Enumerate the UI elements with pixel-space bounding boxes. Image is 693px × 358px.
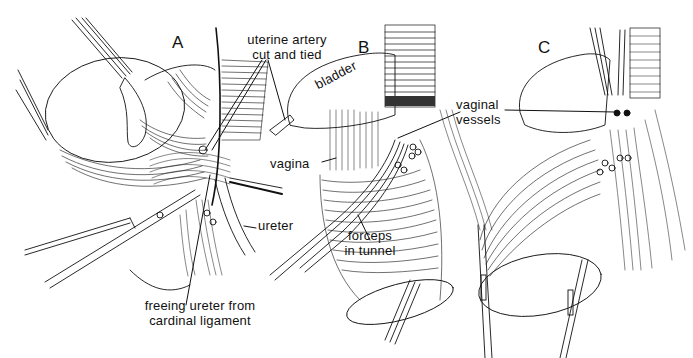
panel-b-drawing xyxy=(270,25,492,344)
label-uterine-artery-line1: uterine artery xyxy=(232,32,342,47)
panel-a-adnexa xyxy=(145,65,215,80)
surgical-illustration xyxy=(0,0,693,358)
panel-c-lower-clamp xyxy=(478,225,588,358)
label-forceps-line1: forceps xyxy=(340,228,400,243)
panel-a-ligament xyxy=(120,78,146,147)
label-vaginal-vessels: vaginal vessels xyxy=(456,97,501,127)
panel-a-uterus xyxy=(38,49,191,171)
panel-a-lower-tissue xyxy=(130,270,190,290)
panel-b-cut-end xyxy=(342,270,458,333)
label-uterine-artery-line2: cut and tied xyxy=(232,47,342,62)
panel-c-cut-end xyxy=(474,245,607,326)
panel-b-lymph-nodes xyxy=(395,144,421,173)
panel-label-c: C xyxy=(538,38,550,58)
panel-b-retractor xyxy=(385,25,435,107)
panel-a-left-forceps xyxy=(16,70,48,140)
panel-a-node xyxy=(210,219,216,225)
label-ureter: ureter xyxy=(258,218,293,233)
panel-a-ureter xyxy=(215,178,255,255)
panel-a-node xyxy=(204,210,210,216)
label-forceps-in-tunnel: forceps in tunnel xyxy=(340,228,400,258)
panel-c-drawing xyxy=(474,28,685,358)
panel-c-bladder xyxy=(519,54,610,133)
label-forceps-line2: in tunnel xyxy=(340,243,400,258)
panel-c-clamps xyxy=(590,28,660,98)
panel-a-top-forceps xyxy=(72,18,132,78)
panel-label-a: A xyxy=(172,33,183,53)
panel-a-scissors xyxy=(25,190,200,288)
panel-a-retractor-blade xyxy=(222,60,268,140)
panel-c-leader-line xyxy=(505,110,615,112)
panel-c-clamp-tip xyxy=(624,110,630,116)
label-freeing-line1: freeing ureter from xyxy=(135,298,265,313)
panel-c-tissue xyxy=(610,110,685,270)
panel-b-lower-forceps xyxy=(385,280,420,344)
label-freeing-ureter: freeing ureter from cardinal ligament xyxy=(135,298,265,328)
label-vagina: vagina xyxy=(270,156,310,171)
label-freeing-line2: cardinal ligament xyxy=(135,313,265,328)
panel-c-vagina xyxy=(480,140,600,276)
label-vaginal-vessels-line2: vessels xyxy=(456,112,501,127)
panel-a-probe xyxy=(230,182,282,194)
panel-b-tissue xyxy=(330,110,492,230)
label-uterine-artery: uterine artery cut and tied xyxy=(232,32,342,62)
panel-c-clamp-tip xyxy=(614,110,620,116)
figure-caption-cutoff xyxy=(0,350,693,358)
panel-b-vagina xyxy=(320,140,442,300)
label-vaginal-vessels-line1: vaginal xyxy=(456,97,501,112)
panel-a-tissue-hatching xyxy=(60,70,210,186)
panel-label-b: B xyxy=(358,38,369,58)
panel-a-retractor-edge xyxy=(212,28,220,205)
